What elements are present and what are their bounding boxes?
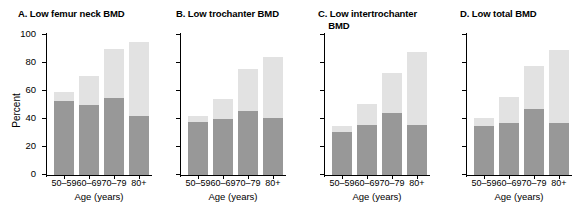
panel-c: C. Low intertrochanter BMD [300, 0, 448, 214]
bar-lower-segment [54, 101, 74, 175]
x-axis-line [46, 175, 152, 176]
panel-b-x-axis-caption: Age (years) [180, 192, 286, 202]
bar-upper-segment [407, 52, 427, 125]
bar-lower-segment [79, 105, 99, 175]
y-tick-label: 40 [25, 113, 36, 123]
y-tick: 100 [42, 34, 46, 35]
bar-stack [549, 50, 569, 175]
bar-upper-segment [499, 97, 519, 124]
bar-stack [332, 126, 352, 175]
x-axis-line [180, 175, 286, 176]
y-tick-label: 100 [20, 29, 36, 39]
x-tick-label: 80+ [409, 178, 424, 188]
bar-lower-segment [549, 123, 569, 175]
bar-lower-segment [407, 125, 427, 175]
bar-lower-segment [263, 118, 283, 175]
y-axis-line [466, 33, 467, 177]
bmd-prevalence-figure: A. Low femur neck BMD Percent 0 20 40 60… [0, 0, 587, 214]
panel-b-title: B. Low trochanter BMD [176, 8, 306, 20]
y-tick-label: 80 [25, 57, 36, 67]
y-axis-line [180, 33, 181, 177]
panel-d-x-axis-caption: Age (years) [466, 192, 572, 202]
y-tick [462, 62, 466, 63]
y-tick [320, 62, 324, 63]
x-tick-label: 60–69 [354, 178, 379, 188]
bar-stack [54, 92, 74, 175]
bar-lower-segment [213, 119, 233, 175]
y-tick [176, 174, 180, 175]
y-axis-line [324, 33, 325, 177]
bar-stack [188, 116, 208, 175]
x-tick-label: 70–79 [379, 178, 404, 188]
bar-upper-segment [213, 99, 233, 119]
panel-a-title: A. Low femur neck BMD [18, 8, 158, 20]
panel-c-plot [324, 35, 430, 175]
y-tick [320, 146, 324, 147]
bar-lower-segment [104, 98, 124, 175]
bar-stack [213, 99, 233, 175]
bar-stack [474, 118, 494, 175]
bar-lower-segment [474, 126, 494, 175]
bar-stack [499, 97, 519, 175]
y-tick [176, 118, 180, 119]
x-tick-label: 70–79 [521, 178, 546, 188]
panel-c-title: C. Low intertrochanter BMD [318, 8, 453, 31]
x-tick-label: 50–59 [51, 178, 76, 188]
bar-stack [357, 104, 377, 175]
x-tick-label: 60–69 [76, 178, 101, 188]
bar-upper-segment [129, 42, 149, 116]
bar-lower-segment [357, 125, 377, 175]
bar-stack [407, 52, 427, 175]
x-tick-label: 70–79 [101, 178, 126, 188]
bar-stack [129, 42, 149, 175]
bar-upper-segment [524, 66, 544, 109]
panel-c-x-axis-caption: Age (years) [324, 192, 430, 202]
bar-upper-segment [263, 57, 283, 117]
panel-a-x-axis-caption: Age (years) [46, 192, 152, 202]
bar-upper-segment [79, 76, 99, 105]
x-tick-label: 70–79 [235, 178, 260, 188]
x-tick-label: 80+ [551, 178, 566, 188]
y-tick [462, 90, 466, 91]
bar-stack [104, 49, 124, 175]
bar-upper-segment [382, 73, 402, 114]
y-tick [176, 34, 180, 35]
bar-stack [263, 57, 283, 175]
bar-stack [79, 76, 99, 175]
y-tick [320, 174, 324, 175]
panel-b: B. Low trochanter BMD [158, 0, 303, 214]
bar-upper-segment [357, 104, 377, 125]
y-tick: 40 [42, 118, 46, 119]
panel-a: A. Low femur neck BMD Percent 0 20 40 60… [14, 0, 159, 214]
bar-lower-segment [332, 132, 352, 175]
bar-lower-segment [129, 116, 149, 175]
bar-lower-segment [382, 113, 402, 175]
y-tick [176, 62, 180, 63]
bar-lower-segment [188, 122, 208, 175]
y-tick [462, 174, 466, 175]
x-axis-line [324, 175, 430, 176]
panel-d-title: D. Low total BMD [460, 8, 587, 20]
bar-upper-segment [238, 69, 258, 111]
panel-b-plot [180, 35, 286, 175]
bar-lower-segment [524, 109, 544, 175]
x-tick-label: 80+ [131, 178, 146, 188]
bar-upper-segment [104, 49, 124, 98]
bar-upper-segment [474, 118, 494, 126]
y-tick: 80 [42, 62, 46, 63]
x-tick-label: 60–69 [210, 178, 235, 188]
bar-stack [382, 73, 402, 175]
y-tick [462, 34, 466, 35]
y-tick [462, 118, 466, 119]
bar-upper-segment [549, 50, 569, 123]
y-tick-label: 20 [25, 141, 36, 151]
y-tick [462, 146, 466, 147]
bar-lower-segment [238, 111, 258, 175]
y-tick [320, 118, 324, 119]
y-tick: 0 [42, 174, 46, 175]
bar-lower-segment [499, 123, 519, 175]
y-axis-label: Percent [11, 93, 22, 127]
y-axis-line [46, 33, 47, 177]
panel-d: D. Low total BMD [446, 0, 587, 214]
y-tick: 20 [42, 146, 46, 147]
